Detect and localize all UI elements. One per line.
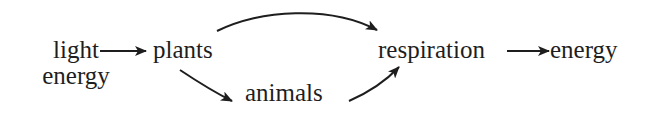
arrow-animals-to-respiration-icon xyxy=(349,67,399,101)
node-animals: animals xyxy=(245,80,323,106)
node-plants: plants xyxy=(153,37,213,63)
node-light-energy-line2: energy xyxy=(35,63,117,89)
node-respiration: respiration xyxy=(378,37,485,63)
energy-flow-diagram: light energy plants animals respiration … xyxy=(0,0,651,113)
node-light-energy-line1: light xyxy=(35,37,117,63)
arrow-plants-to-respiration-icon xyxy=(217,13,377,31)
node-light-energy: light energy xyxy=(35,37,117,89)
node-energy: energy xyxy=(550,37,618,63)
arrow-plants-to-animals-icon xyxy=(180,70,232,101)
